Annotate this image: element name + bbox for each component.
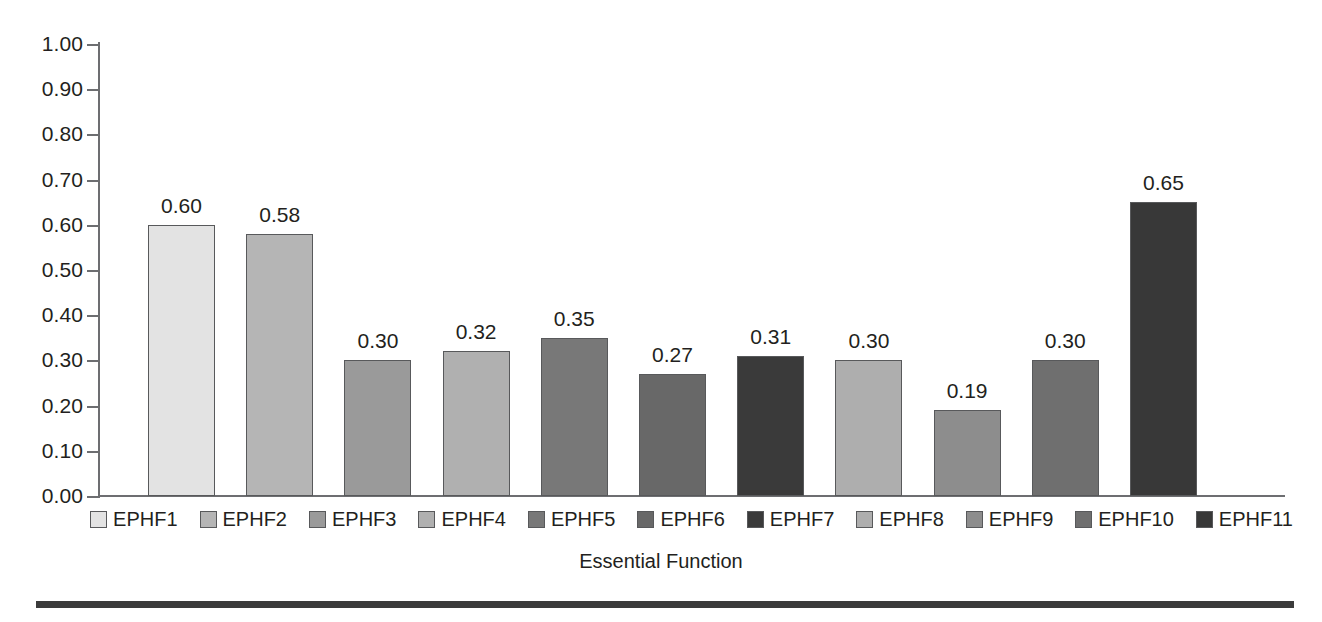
bar-rect[interactable] <box>934 410 1001 496</box>
legend-swatch-icon <box>1196 511 1213 528</box>
bar[interactable]: 0.30 <box>1032 44 1099 496</box>
legend-swatch-icon <box>637 511 654 528</box>
x-axis-title: Essential Function <box>0 550 1322 573</box>
bar-value-label: 0.30 <box>357 329 398 353</box>
legend-item-label: EPHF2 <box>223 508 287 531</box>
legend-swatch-icon <box>528 511 545 528</box>
legend-item-ephf8[interactable]: EPHF8 <box>856 508 943 531</box>
legend-item-label: EPHF7 <box>770 508 834 531</box>
y-axis-tick-mark <box>87 315 98 317</box>
bar-rect[interactable] <box>835 360 902 496</box>
bar[interactable]: 0.30 <box>835 44 902 496</box>
legend-item-label: EPHF8 <box>879 508 943 531</box>
y-axis-tick-mark <box>87 451 98 453</box>
legend-item-ephf4[interactable]: EPHF4 <box>418 508 505 531</box>
bar-value-label: 0.60 <box>161 194 202 218</box>
bar[interactable]: 0.58 <box>246 44 313 496</box>
legend-item-label: EPHF4 <box>441 508 505 531</box>
bar[interactable]: 0.19 <box>934 44 1001 496</box>
bar[interactable]: 0.60 <box>148 44 215 496</box>
bar-value-label: 0.65 <box>1143 171 1184 195</box>
bar[interactable]: 0.35 <box>541 44 608 496</box>
legend-item-ephf2[interactable]: EPHF2 <box>200 508 287 531</box>
y-axis-tick-mark <box>87 360 98 362</box>
bar-value-label: 0.30 <box>1045 329 1086 353</box>
y-axis-tick-mark <box>87 406 98 408</box>
y-axis-tick-mark <box>87 270 98 272</box>
y-axis-tick-label: 0.70 <box>42 168 83 192</box>
legend-swatch-icon <box>747 511 764 528</box>
y-axis-tick-mark <box>87 44 98 46</box>
y-axis-tick-mark <box>87 225 98 227</box>
y-axis-tick-label: 1.00 <box>42 32 83 56</box>
legend-item-ephf3[interactable]: EPHF3 <box>309 508 396 531</box>
legend-item-label: EPHF9 <box>989 508 1053 531</box>
legend-item-label: EPHF10 <box>1098 508 1174 531</box>
bar[interactable]: 0.65 <box>1130 44 1197 496</box>
bar-rect[interactable] <box>148 225 215 496</box>
bar-value-label: 0.31 <box>750 325 791 349</box>
y-axis-tick-label: 0.00 <box>42 484 83 508</box>
legend-item-ephf7[interactable]: EPHF7 <box>747 508 834 531</box>
bar[interactable]: 0.27 <box>639 44 706 496</box>
bar-value-label: 0.35 <box>554 307 595 331</box>
legend-item-ephf11[interactable]: EPHF11 <box>1196 508 1293 531</box>
bar[interactable]: 0.30 <box>344 44 411 496</box>
bar-rect[interactable] <box>443 351 510 496</box>
bar-value-label: 0.30 <box>848 329 889 353</box>
bar-value-label: 0.19 <box>947 379 988 403</box>
legend-swatch-icon <box>309 511 326 528</box>
y-axis-tick-mark <box>87 134 98 136</box>
bar-rect[interactable] <box>1130 202 1197 496</box>
bottom-divider-rule <box>36 601 1294 608</box>
legend-swatch-icon <box>90 511 107 528</box>
legend-swatch-icon <box>418 511 435 528</box>
y-axis-tick-label: 0.50 <box>42 258 83 282</box>
legend-item-label: EPHF5 <box>551 508 615 531</box>
bar[interactable]: 0.31 <box>737 44 804 496</box>
y-axis-tick-label: 0.90 <box>42 77 83 101</box>
bar-value-label: 0.32 <box>456 320 497 344</box>
y-axis-tick-mark <box>87 496 98 498</box>
y-axis-tick-mark <box>87 89 98 91</box>
legend-swatch-icon <box>200 511 217 528</box>
bar-rect[interactable] <box>737 356 804 496</box>
bar-rect[interactable] <box>541 338 608 496</box>
bar-rect[interactable] <box>639 374 706 496</box>
legend-swatch-icon <box>1075 511 1092 528</box>
bar-value-label: 0.58 <box>259 203 300 227</box>
bar[interactable]: 0.32 <box>443 44 510 496</box>
plot-area: 1.000.900.800.700.600.500.400.300.200.10… <box>98 44 1285 496</box>
legend-swatch-icon <box>856 511 873 528</box>
chart-legend: EPHF1EPHF2EPHF3EPHF4EPHF5EPHF6EPHF7EPHF8… <box>98 508 1285 531</box>
legend-item-label: EPHF11 <box>1219 508 1293 531</box>
bar-value-label: 0.27 <box>652 343 693 367</box>
legend-item-ephf1[interactable]: EPHF1 <box>90 508 177 531</box>
legend-item-label: EPHF3 <box>332 508 396 531</box>
legend-item-ephf10[interactable]: EPHF10 <box>1075 508 1174 531</box>
y-axis-tick-label: 0.30 <box>42 348 83 372</box>
y-axis-tick-label: 0.10 <box>42 439 83 463</box>
y-axis-tick-mark <box>87 180 98 182</box>
legend-item-label: EPHF1 <box>113 508 177 531</box>
legend-swatch-icon <box>966 511 983 528</box>
bar-rect[interactable] <box>246 234 313 496</box>
bar-rect[interactable] <box>1032 360 1099 496</box>
bar-chart-figure: 1.000.900.800.700.600.500.400.300.200.10… <box>0 0 1322 622</box>
legend-item-ephf9[interactable]: EPHF9 <box>966 508 1053 531</box>
bar-rect[interactable] <box>344 360 411 496</box>
legend-item-label: EPHF6 <box>660 508 724 531</box>
legend-item-ephf5[interactable]: EPHF5 <box>528 508 615 531</box>
y-axis-tick-label: 0.80 <box>42 122 83 146</box>
legend-item-ephf6[interactable]: EPHF6 <box>637 508 724 531</box>
y-axis-tick-label: 0.60 <box>42 213 83 237</box>
y-axis-tick-label: 0.20 <box>42 394 83 418</box>
y-axis-tick-label: 0.40 <box>42 303 83 327</box>
